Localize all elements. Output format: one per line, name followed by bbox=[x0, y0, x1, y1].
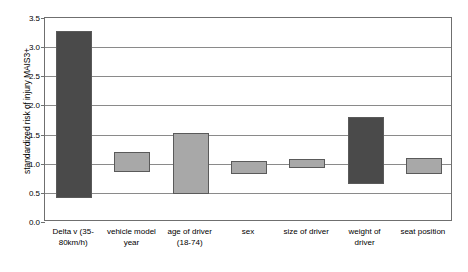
y-axis-tick-label: 2.0 bbox=[29, 101, 40, 110]
x-axis-category-label: sex bbox=[219, 226, 277, 237]
gridline bbox=[45, 105, 451, 106]
y-axis-tick-mark bbox=[41, 193, 45, 194]
y-axis-tick-mark bbox=[41, 105, 45, 106]
y-axis-tick-label: 0.0 bbox=[29, 218, 40, 227]
y-axis-tick-mark bbox=[41, 222, 45, 223]
x-axis-category-label: seat position bbox=[394, 226, 452, 237]
gridline bbox=[45, 76, 451, 77]
y-axis-tick-label: 3.0 bbox=[29, 43, 40, 52]
plot-area: 0.00.51.01.52.02.53.03.5 bbox=[44, 17, 452, 221]
y-axis-tick-label: 0.5 bbox=[29, 188, 40, 197]
x-axis-category-label: vehicle model year bbox=[102, 226, 160, 248]
y-axis-tick-label: 3.5 bbox=[29, 14, 40, 23]
x-axis-category-label: age of driver (18-74) bbox=[161, 226, 219, 248]
y-axis-tick-label: 2.5 bbox=[29, 72, 40, 81]
x-axis-category-label: weight of driver bbox=[335, 226, 393, 248]
gridline bbox=[45, 135, 451, 136]
y-axis-tick-mark bbox=[41, 135, 45, 136]
y-axis-tick-label: 1.5 bbox=[29, 130, 40, 139]
y-axis-tick-mark bbox=[41, 164, 45, 165]
bar bbox=[56, 31, 92, 197]
bar bbox=[289, 159, 325, 168]
x-axis-category-label: size of driver bbox=[277, 226, 335, 237]
x-axis-category-label: Delta v (35- 80km/h) bbox=[44, 226, 102, 248]
gridline bbox=[45, 47, 451, 48]
chart-figure: standardized risk of injury MAIS3+ 0.00.… bbox=[0, 0, 468, 272]
y-axis-tick-mark bbox=[41, 76, 45, 77]
bar bbox=[406, 158, 442, 174]
y-axis-tick-mark bbox=[41, 47, 45, 48]
gridline bbox=[45, 193, 451, 194]
bar bbox=[114, 152, 150, 172]
y-axis-tick-mark bbox=[41, 18, 45, 19]
bar bbox=[348, 117, 384, 184]
bar bbox=[231, 161, 267, 174]
bar bbox=[173, 133, 209, 194]
y-axis-tick-label: 1.0 bbox=[29, 159, 40, 168]
